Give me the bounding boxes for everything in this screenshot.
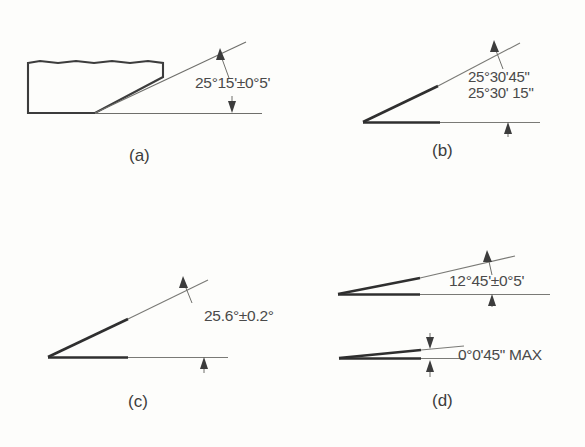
dimension-text-c: 25.6°±0.2° <box>204 307 274 325</box>
inclined-leg-d-lower <box>339 350 421 358</box>
arrowhead-lower-c <box>200 357 208 369</box>
dimension-value-d-upper: 12°45'±0°5' <box>449 272 524 289</box>
panel-label-d: (d) <box>432 391 453 411</box>
dimension-value-d-lower: 0°0'45" MAX <box>458 346 542 363</box>
panel-c-geometry <box>48 276 228 373</box>
inclined-leg-b <box>363 86 438 122</box>
arrowhead-upper-b <box>490 40 499 52</box>
dimension-text-b: 25°30'45" 25°30' 15" <box>468 69 533 101</box>
arrowhead-upper-a <box>216 48 225 60</box>
arrowhead-top-d-lower <box>426 337 434 349</box>
block-outline-a <box>28 61 163 113</box>
panel-label-a: (a) <box>129 146 150 166</box>
arrowhead-upper-d-upper <box>483 250 492 262</box>
dimension-value-a: 25°15'±0°5' <box>195 74 270 91</box>
arrowhead-lower-d-upper <box>488 294 496 306</box>
dimension-upper-limit-b: 25°30'45" <box>468 69 533 85</box>
inclined-leg-c <box>48 319 128 357</box>
dimension-text-d-lower: 0°0'45" MAX <box>458 346 542 364</box>
panel-label-b: (b) <box>432 141 453 161</box>
dimension-text-a: 25°15'±0°5' <box>195 74 270 92</box>
arrowhead-lower-b <box>504 122 512 134</box>
inclined-leg-d-upper <box>338 278 420 294</box>
panel-d-lower-geometry <box>339 333 464 377</box>
dimension-lower-limit-b: 25°30' 15" <box>468 85 533 101</box>
arrowhead-lower-a <box>228 101 236 113</box>
engineering-drawing-figure: 25°15'±0°5' 25°30'45" 25°30' 15" 25.6°±0… <box>0 0 585 447</box>
dimension-value-c: 25.6°±0.2° <box>204 307 274 324</box>
inclined-extension-c <box>128 280 208 319</box>
arrowhead-upper-c <box>179 276 188 288</box>
dimension-text-d-upper: 12°45'±0°5' <box>449 272 524 290</box>
panel-label-c: (c) <box>128 392 148 412</box>
arrowhead-bottom-d-lower <box>426 360 434 372</box>
